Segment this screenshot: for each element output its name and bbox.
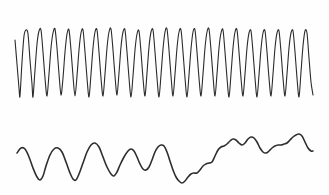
trace-canvas (0, 0, 329, 195)
figure-background (0, 0, 329, 195)
waveform-figure (0, 0, 329, 195)
